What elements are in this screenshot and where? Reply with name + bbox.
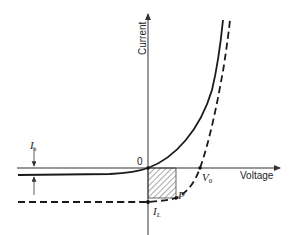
iv-diagram: Current Voltage 0 Is V0 IL P — [0, 0, 295, 235]
dark-curve — [18, 20, 223, 175]
v0-label: V0 — [202, 171, 213, 185]
max-power-rectangle — [148, 168, 176, 198]
origin-label: 0 — [137, 156, 143, 167]
v0-point — [198, 166, 202, 170]
origin-point — [146, 166, 150, 170]
is-label: Is — [29, 139, 37, 153]
il-point — [146, 200, 150, 204]
il-label: IL — [152, 205, 161, 219]
current-axis-label: Current — [137, 21, 148, 55]
p-label: P — [177, 189, 185, 201]
voltage-axis-label: Voltage — [240, 170, 274, 181]
